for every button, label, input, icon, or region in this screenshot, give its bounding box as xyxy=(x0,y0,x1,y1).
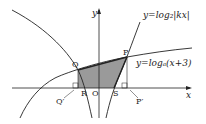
shaded-region xyxy=(78,57,127,88)
x-axis-label: x xyxy=(186,91,191,100)
point-s: S xyxy=(113,90,118,98)
point-q: Q xyxy=(72,61,79,69)
curve-label-log2: y=log₂|kx| xyxy=(143,11,190,20)
diagram: y=log₂|kx| y=logₐ(x+3) y x O P Q R S Q′ … xyxy=(0,0,206,124)
point-p: P xyxy=(123,49,128,57)
point-q-prime: Q′ xyxy=(56,98,64,106)
origin-label: O xyxy=(92,90,99,98)
y-axis-arrow xyxy=(97,8,101,14)
point-p-prime: P′ xyxy=(136,98,143,106)
curve-label-loga: y=logₐ(x+3) xyxy=(136,59,191,68)
curve-log2-left xyxy=(12,10,92,118)
point-r: R xyxy=(81,90,87,98)
y-axis-label: y xyxy=(92,9,97,18)
